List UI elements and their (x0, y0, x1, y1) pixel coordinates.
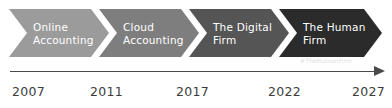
year-label-2022: 2022 (268, 84, 301, 100)
chevron-stage-3[interactable]: The Digital Firm (189, 9, 289, 57)
chevron-stage-2-label: Cloud Accounting (123, 21, 184, 46)
arrow-right-icon (374, 66, 385, 76)
chevron-stage-3-label: The Digital Firm (213, 21, 272, 46)
year-label-2017: 2017 (176, 84, 209, 100)
year-label-2027: 2027 (352, 84, 385, 100)
chevron-stage-1[interactable]: Online Accounting (9, 9, 109, 57)
chevron-stage-1-label: Online Accounting (33, 21, 94, 46)
timeline-axis (0, 62, 392, 80)
chevron-band: Online Accounting Cloud Accounting The D… (0, 0, 392, 60)
axis-line (10, 71, 378, 73)
timeline-infographic: Online Accounting Cloud Accounting The D… (0, 0, 392, 108)
chevron-stage-2[interactable]: Cloud Accounting (99, 9, 199, 57)
year-label-2011: 2011 (90, 84, 123, 100)
year-label-2007: 2007 (12, 84, 45, 100)
chevron-stage-4[interactable]: The Human Firm (279, 9, 382, 57)
year-label-row: 2007 2011 2017 2022 2027 (0, 84, 392, 104)
chevron-stage-4-label: The Human Firm (303, 21, 366, 46)
